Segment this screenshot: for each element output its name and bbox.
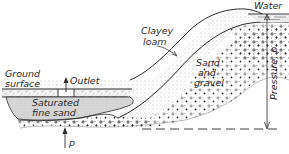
label-surface: surface xyxy=(5,79,40,89)
label-pressure: Pressure, p xyxy=(269,47,279,100)
topsoil-strip-left xyxy=(2,89,58,97)
label-p: p xyxy=(69,138,75,148)
label-gravel: gravel xyxy=(194,78,224,88)
p-arrowhead xyxy=(63,127,68,134)
label-loam: loam xyxy=(143,37,167,47)
clayey-loam-leader-arrow xyxy=(172,51,177,56)
label-outlet: Outlet xyxy=(70,76,99,86)
topsoil-strip-right xyxy=(74,89,130,97)
label-fine-sand: fine sand xyxy=(32,108,76,118)
cross-section-diagram xyxy=(0,0,289,154)
label-clayey: Clayey xyxy=(141,26,173,36)
label-water: Water xyxy=(254,1,282,11)
